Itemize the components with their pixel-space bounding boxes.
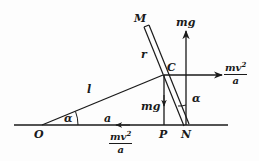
label-mg-up: mg: [176, 17, 195, 28]
label-n: N: [181, 129, 191, 140]
label-l: l: [87, 84, 91, 95]
label-alpha-o: α: [64, 113, 72, 124]
friction-exponent: 2: [126, 129, 131, 138]
angle-arc-o: [76, 112, 79, 126]
centripetal-denominator: a: [224, 75, 247, 86]
label-r: r: [141, 49, 147, 60]
centripetal-exponent: 2: [241, 60, 246, 69]
label-alpha-n: α: [192, 93, 200, 104]
friction-force-label: mv2 a: [109, 130, 132, 155]
label-mg-down: mg: [141, 101, 160, 112]
label-a: a: [104, 113, 111, 124]
label-o: O: [34, 129, 44, 140]
friction-numerator: mv: [110, 131, 126, 142]
friction-denominator: a: [109, 144, 132, 155]
centripetal-force-label: mv2 a: [224, 61, 247, 86]
label-p: P: [159, 129, 167, 140]
centripetal-numerator: mv: [225, 62, 241, 73]
diagram-canvas: M r mg C l mg α α a O P N mv2 a mv2 a: [0, 0, 259, 161]
label-c: C: [167, 62, 176, 73]
label-m: M: [134, 13, 146, 24]
